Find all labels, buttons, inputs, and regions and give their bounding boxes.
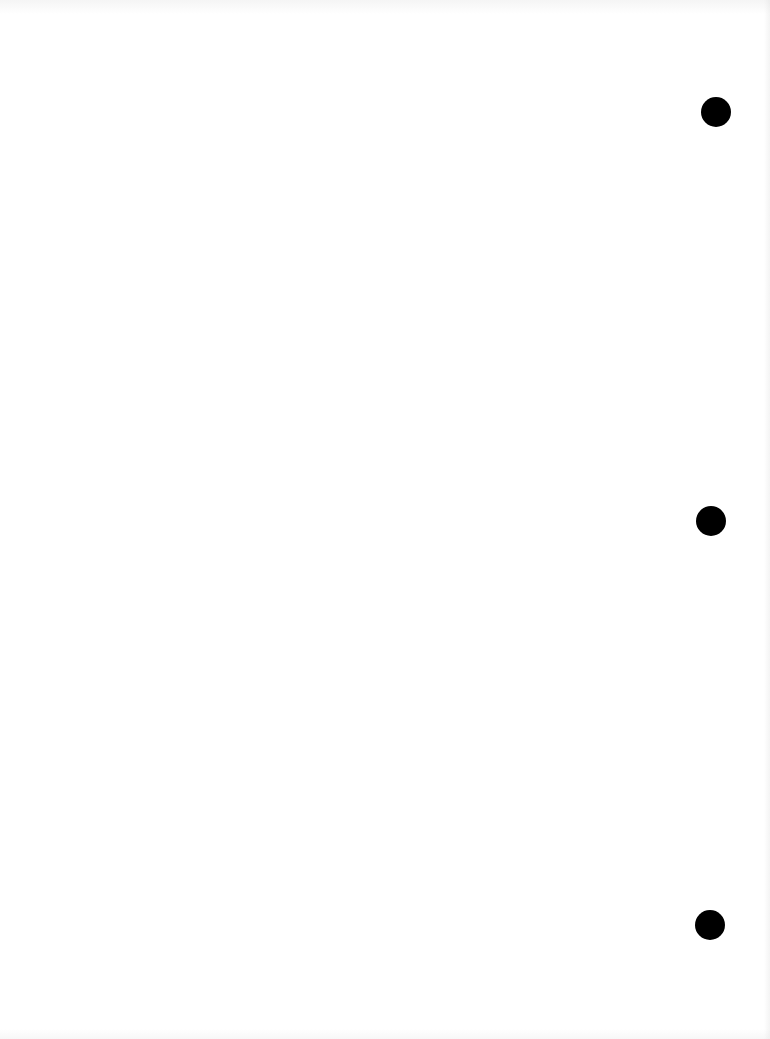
scan-edge-right (764, 0, 770, 1039)
scan-edge-top (0, 0, 770, 14)
punch-hole-bottom (695, 910, 725, 940)
scan-edge-bottom (0, 1029, 770, 1039)
punch-hole-top (701, 97, 731, 127)
blank-scanned-page (0, 0, 770, 1039)
punch-hole-middle (696, 506, 726, 536)
